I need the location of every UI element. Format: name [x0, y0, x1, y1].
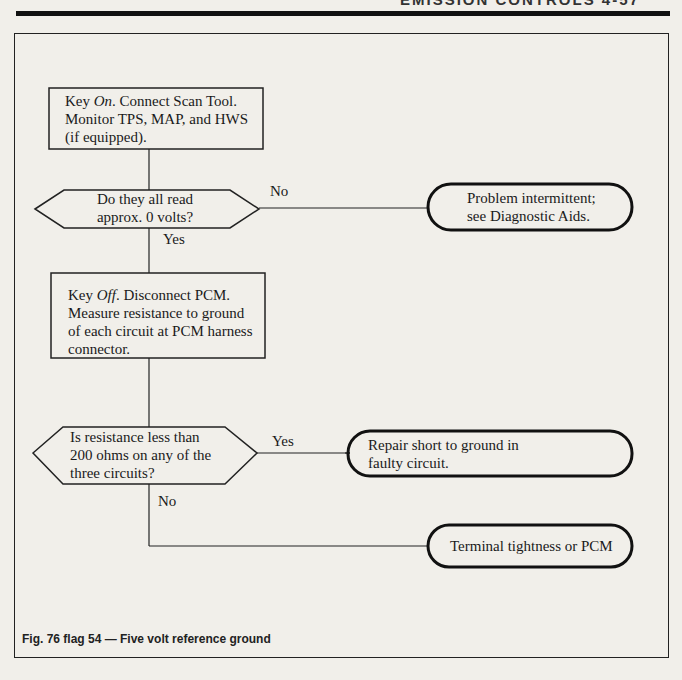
terminal-repair-short: Repair short to ground in faulty circuit… — [368, 436, 519, 472]
figure-caption: Fig. 76 flag 54 — Five volt reference gr… — [22, 632, 271, 646]
decision1-yes-label: Yes — [163, 231, 185, 248]
decision1-no-label: No — [270, 183, 288, 200]
decision2-no-label: No — [158, 493, 176, 510]
step-connect-scan-tool: Key On. Connect Scan Tool. Monitor TPS, … — [65, 92, 248, 146]
step-measure-resistance: Key Off. Disconnect PCM. Measure resista… — [68, 286, 253, 358]
terminal-problem-intermittent: Problem intermittent; see Diagnostic Aid… — [467, 189, 596, 225]
decision-zero-volts: Do they all read approx. 0 volts? — [60, 190, 230, 226]
decision2-yes-label: Yes — [272, 433, 294, 450]
terminal-tightness-or-pcm: Terminal tightness or PCM — [450, 537, 613, 555]
decision-resistance-200-ohms: Is resistance less than 200 ohms on any … — [70, 428, 211, 482]
